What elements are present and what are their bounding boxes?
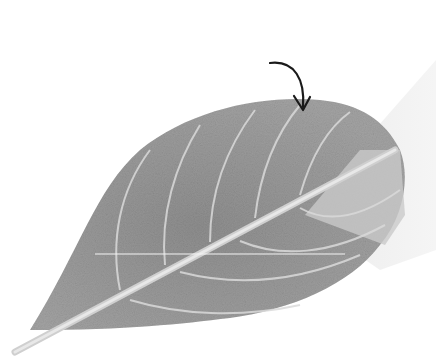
- leaf-image: [0, 0, 436, 358]
- leaf-figure: Underside of a leaf: [0, 0, 436, 358]
